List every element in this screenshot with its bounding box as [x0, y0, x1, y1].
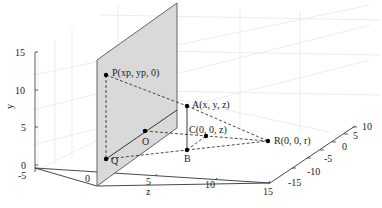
label-C: C(0, 0, z): [189, 124, 227, 136]
projection-diagram: 15 10 5 0 y -5 0 5 10 15 z: [0, 0, 382, 208]
x-tick-neg5: -5: [18, 170, 26, 181]
depth-tick-5: 5: [353, 130, 358, 141]
y-tick-15: 15: [15, 47, 25, 58]
label-R: R(0, 0, r): [274, 135, 311, 147]
y-axis: [35, 52, 38, 172]
depth-tick-0: 0: [342, 141, 347, 152]
point-O: [143, 129, 147, 133]
depth-tick-neg10: -10: [307, 166, 320, 177]
depth-tick-neg5: -5: [324, 153, 332, 164]
label-B: B: [184, 153, 191, 164]
point-B: [185, 148, 189, 152]
point-R: [266, 139, 270, 143]
z-axis-label: z: [146, 186, 151, 197]
depth-tick-neg15: -15: [288, 177, 301, 188]
x-tick-0: 0: [85, 173, 90, 184]
point-P: [104, 73, 108, 77]
z-tick-10: 10: [205, 179, 215, 190]
z-tick-15: 15: [263, 186, 273, 197]
label-P: P(xp, yp, 0): [112, 67, 159, 79]
depth-tick-10: 10: [362, 121, 372, 132]
label-O: O: [142, 136, 149, 147]
projection-plane: [97, 3, 177, 186]
background-grid: [33, 5, 380, 172]
y-tick-10: 10: [15, 85, 25, 96]
point-A: [185, 104, 189, 108]
y-tick-5: 5: [21, 122, 26, 133]
y-axis-label: y: [4, 104, 15, 109]
label-A: A(x, y, z): [192, 99, 230, 111]
label-Q: Q: [111, 155, 119, 166]
point-Q: [104, 157, 108, 161]
